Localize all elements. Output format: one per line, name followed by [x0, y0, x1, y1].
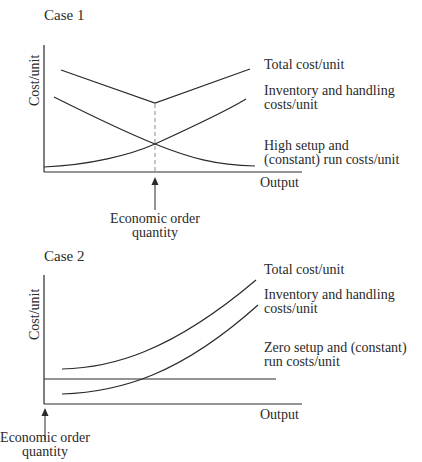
case-1-setup-label-line1: High setup and	[264, 139, 349, 153]
case-2-title: Case 2	[44, 249, 84, 263]
case-2-eoq-label-line1: Economic order	[0, 431, 95, 445]
case-2-total-cost-curve	[62, 280, 256, 369]
case-1-inventory-label-line1: Inventory and handling	[264, 84, 395, 98]
case-1-x-axis-label: Output	[260, 176, 299, 190]
case-2-eoq-label-line2: quantity	[0, 445, 95, 459]
case-1-plot	[0, 0, 422, 235]
case-1-eoq-arrow-head	[152, 177, 159, 185]
case-2-eoq-arrow-head	[42, 408, 49, 416]
case-1-total-cost-curve	[61, 69, 250, 103]
case-1-total-cost-label: Total cost/unit	[264, 58, 344, 72]
case-2-panel: Case 2 Cost/unit Total cost/unit Invento…	[0, 235, 422, 462]
case-1-y-axis-label: Cost/unit	[27, 55, 43, 106]
case-2-y-axis-label: Cost/unit	[27, 289, 43, 340]
case-1-inventory-curve	[44, 99, 246, 167]
case-2-inventory-label-line2: costs/unit	[264, 302, 318, 316]
case-1-title: Case 1	[44, 8, 84, 22]
case-2-setup-label-line1: Zero setup and (constant)	[264, 341, 407, 355]
case-2-setup-label-line2: run costs/unit	[264, 355, 340, 369]
case-1-inventory-label-line2: costs/unit	[264, 98, 318, 112]
case-1-panel: Case 1 Cost/unit Total cost/unit Invento…	[0, 0, 422, 235]
case-2-inventory-curve	[62, 305, 258, 394]
case-1-eoq-label-line1: Economic order	[105, 212, 205, 226]
case-2-inventory-label-line1: Inventory and handling	[264, 288, 395, 302]
case-1-setup-label-line2: (constant) run costs/unit	[264, 153, 399, 167]
case-2-total-cost-label: Total cost/unit	[264, 263, 344, 277]
case-2-x-axis-label: Output	[260, 408, 299, 422]
